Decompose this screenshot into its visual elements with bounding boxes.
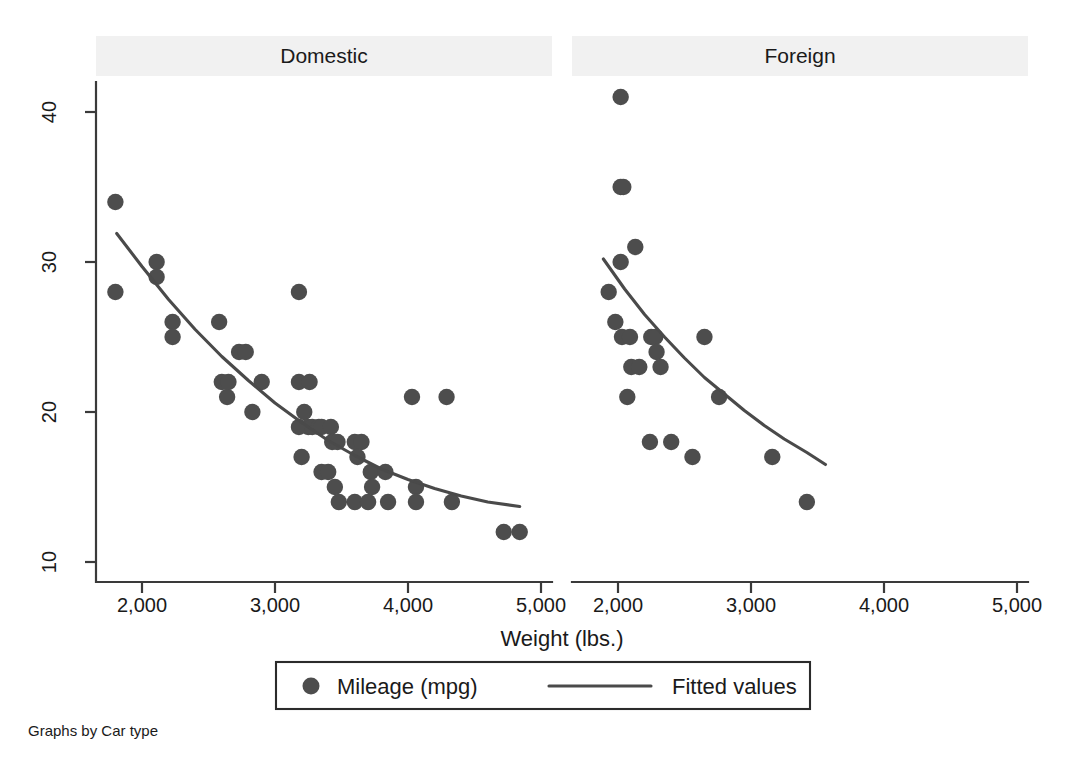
legend-label-mileage: Mileage (mpg) bbox=[337, 674, 478, 699]
x-tick-label-domestic-3000: 3,000 bbox=[250, 594, 300, 616]
y-tick-label-40: 40 bbox=[38, 101, 60, 123]
labels-layer: Domestic Foreign 40 30 20 10 2,000 3,000… bbox=[0, 0, 1090, 770]
legend-label-fitted: Fitted values bbox=[672, 674, 797, 699]
y-tick-label-20: 20 bbox=[38, 401, 60, 423]
x-tick-label-foreign-4000: 4,000 bbox=[859, 594, 909, 616]
x-tick-label-foreign-5000: 5,000 bbox=[992, 594, 1042, 616]
x-tick-label-domestic-4000: 4,000 bbox=[383, 594, 433, 616]
x-tick-label-domestic-5000: 5,000 bbox=[516, 594, 566, 616]
y-tick-label-30: 30 bbox=[38, 251, 60, 273]
figure-note: Graphs by Car type bbox=[28, 722, 158, 739]
panel-title-foreign: Foreign bbox=[764, 44, 835, 67]
x-tick-label-domestic-2000: 2,000 bbox=[117, 594, 167, 616]
panel-title-domestic: Domestic bbox=[280, 44, 368, 67]
x-axis-title: Weight (lbs.) bbox=[500, 626, 623, 651]
legend-marker-circle-icon bbox=[303, 678, 320, 695]
figure-root: Domestic Foreign 40 30 20 10 2,000 3,000… bbox=[0, 0, 1090, 770]
x-tick-label-foreign-3000: 3,000 bbox=[726, 594, 776, 616]
y-tick-label-10: 10 bbox=[38, 551, 60, 573]
x-tick-label-foreign-2000: 2,000 bbox=[593, 594, 643, 616]
